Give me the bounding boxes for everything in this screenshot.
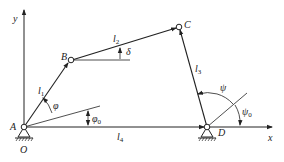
angle-phi0-label: φ0 (92, 114, 101, 126)
joint-b (68, 57, 74, 63)
four-bar-linkage-diagram (0, 0, 284, 162)
psi0-reference-line (207, 93, 247, 127)
link-l1-label: l1 (38, 86, 44, 98)
psi-arc (198, 93, 233, 104)
phi0-reference-line (24, 106, 100, 127)
psi0-arc (235, 105, 240, 125)
joint-a (21, 124, 27, 130)
angle-psi0-label: ψ0 (242, 107, 252, 119)
angle-psi-label: ψ (220, 83, 226, 93)
y-axis-label: y (13, 14, 17, 24)
link-l3 (180, 30, 207, 127)
joint-b-label: B (61, 52, 67, 62)
joint-d-label: D (218, 128, 225, 138)
phi-arc (43, 98, 52, 113)
joint-d (204, 124, 210, 130)
joint-c-label: C (184, 20, 191, 30)
angle-delta-label: δ (126, 47, 131, 57)
link-l4-label: l4 (117, 132, 123, 144)
joint-c (176, 24, 182, 30)
link-l2 (72, 28, 176, 60)
x-axis-label: x (268, 133, 272, 143)
link-l3-label: l3 (195, 64, 201, 76)
angle-phi-label: φ (53, 101, 59, 111)
link-l2-label: l2 (113, 34, 119, 46)
joint-a-label: A (10, 122, 16, 132)
origin-o-label: O (20, 145, 27, 155)
link-l1 (24, 63, 68, 127)
